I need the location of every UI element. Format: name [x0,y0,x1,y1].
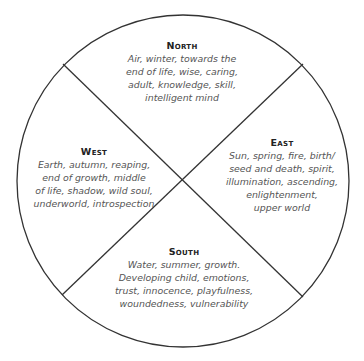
desc-line: woundedness, vulnerability [104,297,264,310]
desc-line: Air, winter, towards the [105,52,259,65]
desc-line: trust, innocence, playfulness, [104,284,264,297]
desc-line: end of growth, middle [14,171,174,184]
desc-line: of life, shadow, wild soul, [14,184,174,197]
quadrant-title: South [104,246,264,258]
quadrant-description: Earth, autumn, reaping, end of growth, m… [14,158,174,210]
desc-line: illumination, ascending, [206,175,358,188]
desc-line: Water, summer, growth. [104,258,264,271]
desc-line: adult, knowledge, skill, [105,78,259,91]
quadrant-title: East [206,137,358,149]
quadrant-title: North [105,40,259,52]
desc-line: underworld, introspection [14,197,174,210]
desc-line: seed and death, spirit, [206,162,358,175]
quadrant-description: Water, summer, growth. Developing child,… [104,258,264,310]
quadrant-description: Sun, spring, fire, birth/ seed and death… [206,149,358,214]
desc-line: intelligent mind [105,91,259,104]
quadrant-north: North Air, winter, towards the end of li… [105,40,259,104]
quadrant-west: West Earth, autumn, reaping, end of grow… [14,146,174,210]
quadrant-title: West [14,146,174,158]
desc-line: Earth, autumn, reaping, [14,158,174,171]
desc-line: upper world [206,201,358,214]
desc-line: Sun, spring, fire, birth/ [206,149,358,162]
quadrant-east: East Sun, spring, fire, birth/ seed and … [206,137,358,214]
quadrant-south: South Water, summer, growth. Developing … [104,246,264,310]
desc-line: end of life, wise, caring, [105,65,259,78]
quadrant-description: Air, winter, towards the end of life, wi… [105,52,259,104]
desc-line: enlightenment, [206,188,358,201]
desc-line: Developing child, emotions, [104,271,264,284]
